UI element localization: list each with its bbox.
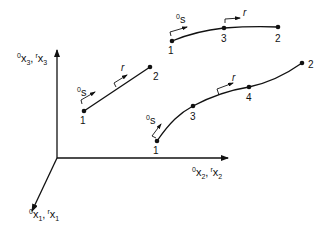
x1-axis-label: 0x1,rx1 <box>29 208 59 222</box>
r-direction-arrow <box>114 75 127 87</box>
node-label-1: 1 <box>168 45 174 56</box>
node-label-1: 1 <box>80 115 86 126</box>
r-label: r <box>232 72 236 83</box>
r-label: r <box>243 7 247 18</box>
r-direction-arrow <box>225 18 240 23</box>
node-label-3: 3 <box>190 111 196 122</box>
node-label-2: 2 <box>275 33 281 44</box>
node-4 <box>247 85 252 90</box>
node-label-4: 4 <box>246 92 252 103</box>
node-1 <box>82 109 87 114</box>
node-label-2: 2 <box>153 71 159 82</box>
node-2 <box>276 25 281 30</box>
node-label-3: 3 <box>221 33 227 44</box>
node-2 <box>300 61 305 66</box>
coordinate-axes <box>32 50 228 211</box>
s-label: 0s <box>77 86 87 98</box>
curved-element-4-node: 1 3 4 2 0s r <box>146 59 314 156</box>
node-label-2: 2 <box>308 59 314 70</box>
s-label: 0s <box>146 114 156 126</box>
x1-axis <box>32 158 57 211</box>
node-3 <box>191 104 196 109</box>
s-label: 0s <box>176 13 186 25</box>
r-label: r <box>121 62 125 73</box>
node-1 <box>170 39 175 44</box>
diagram-canvas: 0x3,rx3 0x2,rx2 0x1,rx1 1 2 0s r 1 3 2 0… <box>0 0 329 228</box>
s-direction-arrow <box>152 124 161 138</box>
x3-axis-label: 0x3,rx3 <box>17 52 47 66</box>
x2-axis-label: 0x2,rx2 <box>192 166 222 180</box>
node-3 <box>222 26 227 31</box>
s-direction-arrow <box>170 27 187 36</box>
node-label-1: 1 <box>153 145 159 156</box>
curved-element-3-node: 1 3 2 0s r <box>168 7 281 56</box>
node-1 <box>155 139 160 144</box>
node-2 <box>148 65 153 70</box>
